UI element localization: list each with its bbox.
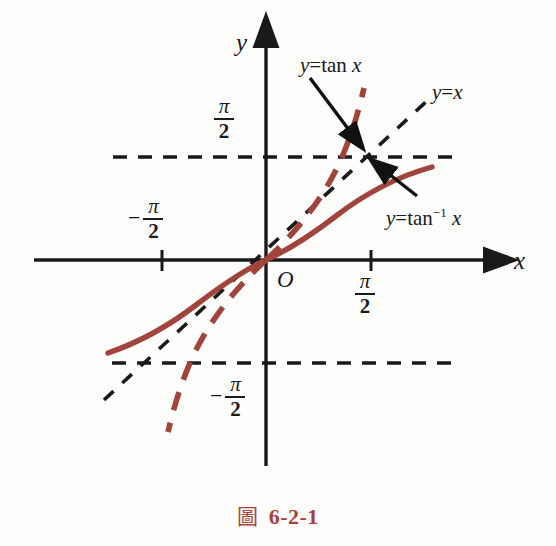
tan-label-lhs: y: [300, 53, 309, 77]
y-tick-label-neg-pi-over-2: − π 2: [210, 374, 245, 420]
arctan-label-lhs: y: [386, 206, 395, 230]
y-tick-label-pi-over-2: π 2: [214, 96, 234, 142]
identity-label-equals: =: [441, 80, 453, 104]
identity-line-label: y=x: [432, 82, 463, 103]
fraction-pi-over-2: π 2: [355, 271, 375, 317]
origin-label: O: [277, 268, 294, 291]
tan-label-function: tan: [321, 53, 347, 77]
fraction-numerator: π: [227, 374, 244, 396]
y-axis-label: y: [236, 30, 247, 55]
fraction-denominator: 2: [227, 398, 244, 420]
tan-label-pointer-arrow: [310, 78, 349, 130]
tan-curve-label: y=tan x: [300, 55, 361, 76]
arctan-curve-label: y=tan−1 x: [386, 208, 461, 229]
tan-label-arg: x: [352, 53, 361, 77]
x-axis-label: x: [514, 248, 525, 273]
fraction-denominator: 2: [145, 220, 162, 242]
x-tick-label-pi-over-2: π 2: [355, 271, 375, 317]
identity-label-lhs: y: [432, 80, 441, 104]
arctan-label-equals: =: [395, 206, 407, 230]
arctan-label-arg: x: [452, 206, 461, 230]
fraction-numerator: π: [145, 196, 162, 218]
fraction-numerator: π: [357, 271, 374, 293]
x-tick-label-neg-pi-over-2: − π 2: [128, 196, 163, 242]
fraction-pi-over-2: π 2: [214, 96, 234, 142]
tan-label-equals: =: [309, 53, 321, 77]
identity-label-arg: x: [453, 80, 462, 104]
caption-symbol: 圖: [237, 505, 259, 529]
fraction-pi-over-2: π 2: [225, 374, 245, 420]
figure-container: y x O π 2 − π 2 π 2: [0, 0, 556, 546]
fraction-denominator: 2: [216, 120, 233, 142]
figure-caption: 圖6-2-1: [0, 500, 556, 530]
fraction-numerator: π: [216, 96, 233, 118]
fraction-denominator: 2: [357, 295, 374, 317]
arctan-label-exponent: −1: [433, 205, 447, 220]
minus-sign: −: [210, 385, 222, 407]
caption-number: 6-2-1: [269, 504, 319, 529]
arctan-label-function: tan: [407, 206, 433, 230]
fraction-pi-over-2: π 2: [143, 196, 163, 242]
minus-sign: −: [128, 207, 140, 229]
